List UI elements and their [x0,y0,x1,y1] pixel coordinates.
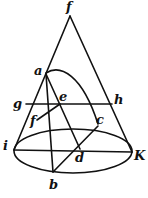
section-curve [46,70,98,124]
label-i: i [3,138,8,153]
label-apex-f: f [65,0,74,14]
line-bc [53,126,98,172]
label-c: c [96,112,104,127]
label-g: g [13,96,22,111]
label-e: e [59,89,67,104]
label-h: h [114,92,123,107]
label-b: b [49,177,58,192]
label-d: d [75,150,84,165]
label-k: K [133,148,146,163]
label-a: a [34,63,42,78]
cone-diagram: f a g e h f c i d K b [0,0,148,198]
